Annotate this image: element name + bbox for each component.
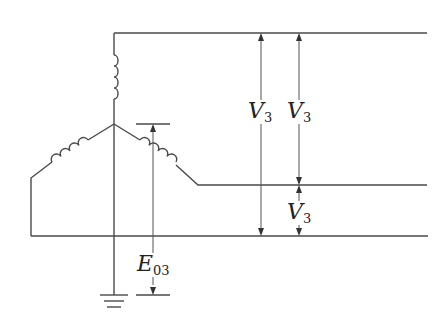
arrow-up-icon <box>150 124 156 132</box>
arrow-down-icon <box>296 228 302 236</box>
left-winding-outer-lead <box>31 162 52 236</box>
top-winding-coil <box>114 55 118 99</box>
label-v3-middle-bottom: V3 <box>287 201 311 225</box>
arrow-down-icon <box>258 228 264 236</box>
right-winding-lead <box>114 124 140 140</box>
arrow-down-icon <box>150 287 156 295</box>
circuit-drawing <box>0 0 446 330</box>
ground-icon <box>100 295 128 307</box>
left-winding-coil <box>51 137 88 162</box>
label-v3-top-bottom: V3 <box>248 100 272 124</box>
label-v3-top-middle: V3 <box>287 100 311 124</box>
arrow-up-icon <box>258 33 264 41</box>
right-winding-coil <box>140 137 177 162</box>
arrow-up-icon <box>296 185 302 193</box>
middle-phase-line <box>176 165 427 185</box>
diagram-canvas: V3 V3 V3 E03 <box>0 0 446 330</box>
label-e03: E03 <box>137 253 170 277</box>
v3-top-bottom-dimension <box>258 33 264 236</box>
arrow-down-icon <box>296 177 302 185</box>
left-winding-lead <box>88 124 114 140</box>
arrow-up-icon <box>296 33 302 41</box>
